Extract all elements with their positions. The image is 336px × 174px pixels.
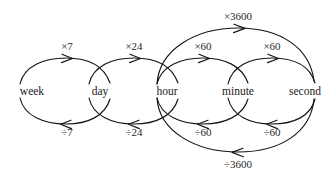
unit-conversion-diagram-container: ×7 ÷7 ×24 ÷24 ×60 ÷60 [0, 0, 336, 174]
node-day: day [92, 85, 109, 98]
edge-hour-to-minute: ×60 [157, 40, 248, 84]
edge-day-to-week: ÷7 [20, 98, 110, 138]
node-week: week [20, 85, 45, 97]
edge-hour-to-minute-label: ×60 [194, 40, 212, 52]
edge-week-to-day: ×7 [20, 40, 110, 84]
edge-second-to-minute: ÷60 [228, 98, 315, 138]
node-second: second [289, 85, 321, 97]
edge-hour-to-day: ÷24 [89, 98, 178, 138]
edge-hour-to-second: ×3600 [157, 10, 314, 84]
edge-minute-to-second: ×60 [228, 40, 315, 84]
edge-minute-to-hour-label: ÷60 [194, 126, 212, 138]
edge-hour-to-second-label: ×3600 [224, 10, 253, 22]
edge-minute-to-second-label: ×60 [263, 40, 281, 52]
edge-week-to-day-label: ×7 [61, 40, 73, 52]
unit-conversion-diagram: ×7 ÷7 ×24 ÷24 ×60 ÷60 [0, 0, 336, 174]
edge-day-to-week-label: ÷7 [61, 126, 73, 138]
edge-minute-to-hour: ÷60 [157, 98, 248, 138]
edge-day-to-hour-label: ×24 [125, 40, 143, 52]
edge-second-to-hour: ÷3600 [157, 98, 314, 170]
node-hour: hour [156, 85, 177, 97]
edge-second-to-hour-arc [157, 98, 314, 152]
node-minute: minute [222, 85, 254, 97]
edge-second-to-hour-label: ÷3600 [224, 158, 253, 170]
edge-hour-to-day-label: ÷24 [125, 126, 143, 138]
edge-hour-to-second-arc [157, 28, 314, 84]
edge-day-to-hour: ×24 [89, 40, 178, 84]
edge-second-to-minute-label: ÷60 [263, 126, 281, 138]
